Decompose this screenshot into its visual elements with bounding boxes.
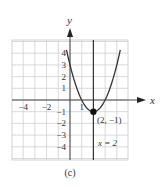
y-tick-label: −3: [56, 130, 66, 140]
y-tick-label: −1: [56, 107, 66, 117]
y-tick-label: 3: [62, 60, 67, 70]
y-tick-label: 2: [62, 72, 67, 82]
y-axis-arrow-icon: [67, 28, 73, 37]
vertex-point: [90, 109, 96, 115]
vertex-label: (2, −1): [97, 115, 122, 125]
x-tick-label: 1: [79, 102, 84, 112]
y-axis-label: y: [66, 14, 72, 26]
parabola-chart: −4−214321−1−2−3−4 x y (c) x = 2 (2, −1): [0, 0, 164, 188]
caption: (c): [64, 167, 75, 179]
x-axis-label: x: [149, 94, 155, 106]
x-tick-label: −4: [18, 102, 28, 112]
y-tick-label: −2: [56, 118, 66, 128]
x-axis-arrow-icon: [137, 97, 146, 103]
y-tick-label: 4: [62, 48, 67, 58]
y-tick-label: −4: [56, 142, 66, 152]
y-tick-label: 1: [62, 83, 67, 93]
vertical-line-label: x = 2: [97, 138, 118, 148]
x-tick-label: −2: [42, 102, 52, 112]
